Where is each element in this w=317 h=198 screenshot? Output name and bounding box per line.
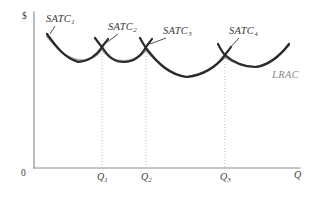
tick-label-q1-sub: 1	[104, 176, 108, 184]
tick-label-q2: Q2	[141, 172, 152, 182]
curve-label-satc-4-sub: 4	[254, 30, 258, 38]
curve-label-satc-2-sub: 2	[133, 26, 137, 34]
curve-label-satc-1: SATC1	[46, 14, 75, 25]
curve-label-satc-4: SATC4	[229, 26, 258, 37]
curve-label-satc-3-sub: 3	[188, 30, 192, 38]
curve-label-satc-3: SATC3	[163, 26, 192, 37]
curve-label-lrac: LRAC	[272, 70, 299, 81]
satc-curves-group	[47, 34, 289, 77]
leader-line-satc4	[228, 38, 239, 50]
curve-label-satc-4-base: SATC	[229, 25, 254, 36]
curve-label-satc-1-base: SATC	[46, 13, 71, 24]
curve-label-satc-2-base: SATC	[108, 21, 133, 32]
tick-label-q2-sub: 2	[148, 176, 152, 184]
curve-label-satc-1-sub: 1	[71, 18, 75, 26]
curve-label-satc-3-base: SATC	[163, 25, 188, 36]
tick-label-q3: Q3	[220, 172, 231, 182]
origin-label: 0	[21, 169, 26, 179]
x-axis-label: Q	[294, 170, 301, 180]
quantity-guide-lines	[102, 47, 225, 168]
satc-2-curve	[95, 38, 152, 62]
cost-curve-plot	[0, 0, 317, 198]
tick-label-q1: Q1	[97, 172, 108, 182]
satc-4-curve	[218, 44, 289, 67]
curve-label-satc-2: SATC2	[108, 22, 137, 33]
cost-curve-figure: $ 0 Q SATC1 SATC2 SATC3 SATC4 LRAC Q1 Q2…	[0, 0, 317, 198]
tick-label-q3-sub: 3	[227, 176, 231, 184]
y-axis-label: $	[22, 12, 27, 22]
leader-line-satc1	[50, 26, 55, 34]
